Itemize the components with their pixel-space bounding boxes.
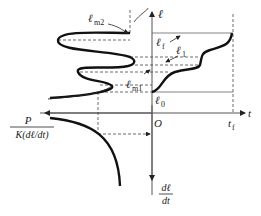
l1-label: ℓ (176, 44, 181, 56)
dt-label: dt (162, 195, 170, 206)
l0-label: ℓ (155, 94, 160, 106)
origin-label: O (154, 117, 162, 129)
p-label: P (24, 114, 32, 126)
k-label: K(dℓ/dt) (14, 129, 49, 141)
dashed-lines (58, 10, 233, 134)
lower-left-curve (50, 118, 120, 186)
lm1-label: ℓ (126, 78, 131, 90)
tf-sub: f (232, 123, 235, 132)
l0-sub: 0 (161, 100, 165, 109)
l1-sub: 1 (182, 50, 186, 59)
annotation-arrows (108, 8, 180, 74)
lf-sub: f (162, 42, 165, 51)
t-axis-label: t (248, 107, 252, 119)
dl-label: dℓ (161, 182, 170, 193)
labels: ℓ t O ℓ m2 ℓ f ℓ 1 ℓ m1 ℓ 0 t f P K(dℓ/d… (10, 7, 252, 206)
axes (40, 12, 245, 195)
left-oscillating-curve (50, 33, 134, 98)
lm2-sub: m2 (94, 18, 104, 27)
l-axis-label: ℓ (158, 7, 163, 21)
diagram-canvas: ℓ t O ℓ m2 ℓ f ℓ 1 ℓ m1 ℓ 0 t f P K(dℓ/d… (0, 0, 261, 216)
lm2-label: ℓ (88, 12, 93, 24)
lf-label: ℓ (156, 36, 161, 48)
lm1-sub: m1 (132, 84, 142, 93)
